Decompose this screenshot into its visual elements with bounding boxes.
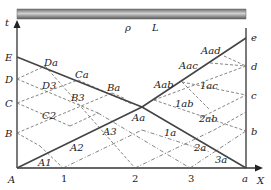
x-tick-2: 2 bbox=[132, 173, 138, 184]
rod bbox=[17, 9, 246, 19]
label-A3: A3 bbox=[102, 126, 117, 137]
characteristics-diagram: ρ L t X bbox=[0, 0, 271, 190]
point-A-label: A bbox=[7, 174, 15, 185]
x-axis-label: X bbox=[256, 175, 265, 186]
label-1ac: 1ac bbox=[200, 80, 218, 91]
x-tick-1: 1 bbox=[61, 173, 67, 184]
point-C-label: C bbox=[5, 98, 13, 109]
label-2ab: 2ab bbox=[198, 113, 218, 124]
point-a-label: a bbox=[242, 173, 248, 184]
label-C2: C2 bbox=[42, 110, 56, 121]
rod-density-label: ρ bbox=[124, 22, 131, 33]
label-3a: 3a bbox=[215, 154, 227, 165]
point-D-label: D bbox=[4, 74, 13, 85]
point-e-label: e bbox=[251, 32, 257, 43]
t-axis bbox=[14, 20, 21, 168]
label-Ca: Ca bbox=[75, 69, 89, 80]
label-Ba: Ba bbox=[106, 82, 120, 93]
label-1ab: 1ab bbox=[175, 98, 194, 109]
label-Da: Da bbox=[43, 57, 58, 68]
point-d-label: d bbox=[251, 61, 257, 72]
x-axis bbox=[17, 165, 263, 172]
point-B-label: B bbox=[4, 128, 12, 139]
label-Aac: Aac bbox=[178, 60, 198, 71]
point-b-label: b bbox=[251, 126, 257, 137]
rod-length-label: L bbox=[151, 22, 159, 33]
label-B3: B3 bbox=[70, 92, 85, 103]
label-A2: A2 bbox=[69, 142, 84, 153]
t-axis-label: t bbox=[5, 17, 10, 28]
label-Aad: Aad bbox=[200, 45, 221, 56]
point-c-label: c bbox=[251, 90, 257, 101]
label-Aa: Aa bbox=[131, 112, 145, 123]
label-1a: 1a bbox=[164, 127, 176, 138]
label-Aab: Aab bbox=[153, 79, 174, 90]
x-tick-3: 3 bbox=[188, 173, 194, 184]
label-D3: D3 bbox=[41, 80, 56, 91]
point-E-label: E bbox=[4, 52, 13, 63]
label-2a: 2a bbox=[193, 142, 206, 153]
label-A1: A1 bbox=[37, 157, 52, 168]
